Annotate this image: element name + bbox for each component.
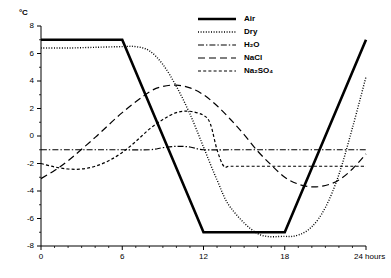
x-tick-label: 6 [107, 252, 137, 261]
legend-line-swatch [196, 14, 238, 24]
series-line-naso [41, 111, 366, 169]
legend-item-label: Na₂SO₄ [244, 66, 273, 76]
y-tick-label: 0 [8, 131, 34, 140]
x-axis-unit-label: 24 hours [354, 252, 385, 261]
legend-item-naso: Na₂SO₄ [196, 64, 316, 77]
legend-item-nacl: NaCl [196, 51, 316, 64]
y-axis-unit-label: °C [19, 8, 28, 17]
legend-item-dry: Dry [196, 25, 316, 38]
chart-legend: AirDryH₂ONaClNa₂SO₄ [196, 12, 316, 77]
legend-line-swatch [196, 27, 238, 37]
temperature-chart: °C 86420-2-4-6-8 06121824 hours AirDryH₂… [0, 0, 391, 278]
legend-item-label: Dry [244, 27, 257, 37]
legend-item-label: H₂O [244, 40, 260, 50]
y-tick-label: -6 [8, 214, 34, 223]
y-tick-label: -2 [8, 159, 34, 168]
y-tick-label: -8 [8, 241, 34, 250]
legend-item-air: Air [196, 12, 316, 25]
legend-item-label: NaCl [244, 53, 262, 63]
legend-line-swatch [196, 53, 238, 63]
y-tick-label: 8 [8, 21, 34, 30]
legend-item-ho: H₂O [196, 38, 316, 51]
legend-line-swatch [196, 66, 238, 76]
y-tick-label: 6 [8, 49, 34, 58]
y-tick-label: 4 [8, 76, 34, 85]
x-tick-label: 0 [26, 252, 56, 261]
y-tick-label: 2 [8, 104, 34, 113]
x-tick-label: 12 [189, 252, 219, 261]
y-tick-label: -4 [8, 186, 34, 195]
legend-item-label: Air [244, 14, 255, 24]
series-line-nacl [41, 85, 366, 187]
legend-line-swatch [196, 40, 238, 50]
x-tick-label: 18 [270, 252, 300, 261]
